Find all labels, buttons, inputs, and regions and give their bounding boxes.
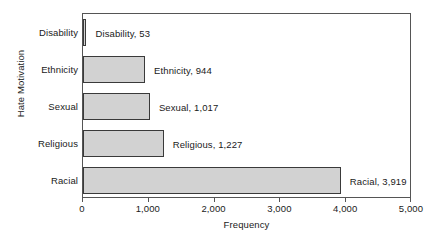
bar-value-label: Sexual, 1,017 (159, 101, 218, 112)
y-tick-label-ethnicity: Ethnicity (41, 63, 78, 74)
x-tick-label-4000: 4,000 (333, 203, 357, 214)
bar-chart: Hate Motivation DisabilityEthnicitySexua… (0, 0, 431, 247)
y-axis-tick-labels: DisabilityEthnicitySexualReligiousRacial (0, 13, 78, 198)
bar-disability (83, 19, 86, 46)
bar-value-label: Racial, 3,919 (350, 175, 407, 186)
x-tick-mark (148, 198, 149, 202)
bar-row: Disability, 53 (83, 19, 412, 46)
x-tick-label-5000: 5,000 (399, 203, 423, 214)
bar-row: Religious, 1,227 (83, 130, 412, 157)
x-tick-mark (82, 198, 83, 202)
y-tick-label-racial: Racial (51, 174, 78, 185)
y-tick-label-sexual: Sexual (48, 100, 78, 111)
plot-area: Disability, 53Ethnicity, 944Sexual, 1,01… (82, 13, 411, 198)
bar-value-label: Ethnicity, 944 (154, 64, 212, 75)
bar-value-label: Religious, 1,227 (173, 138, 243, 149)
bar-row: Sexual, 1,017 (83, 93, 412, 120)
x-tick-label-2000: 2,000 (201, 203, 225, 214)
y-tick-label-religious: Religious (38, 137, 78, 148)
bar-religious (83, 130, 164, 157)
x-tick-mark (345, 198, 346, 202)
bar-racial (83, 167, 341, 194)
x-tick-label-3000: 3,000 (267, 203, 291, 214)
x-tick-label-1000: 1,000 (136, 203, 160, 214)
bar-ethnicity (83, 56, 145, 83)
x-tick-mark (410, 198, 411, 202)
y-tick-label-disability: Disability (39, 26, 78, 37)
bar-value-label: Disability, 53 (95, 27, 150, 38)
x-tick-mark (214, 198, 215, 202)
x-axis-title: Frequency (82, 219, 411, 230)
x-tick-label-0: 0 (79, 203, 84, 214)
x-tick-mark (279, 198, 280, 202)
bar-row: Racial, 3,919 (83, 167, 412, 194)
bar-sexual (83, 93, 150, 120)
bar-row: Ethnicity, 944 (83, 56, 412, 83)
